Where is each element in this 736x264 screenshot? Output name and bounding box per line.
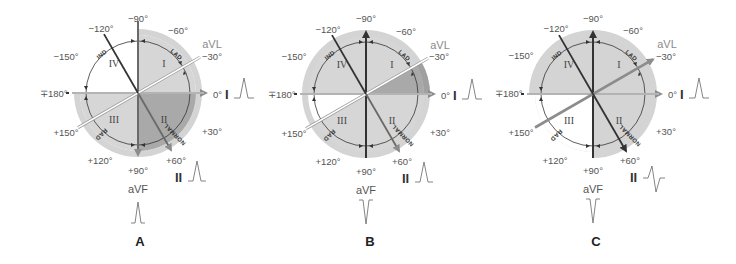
- lead-label-avl: aVL: [430, 39, 450, 51]
- lead-label-i: I: [453, 88, 457, 103]
- panel-c: I II III IV IND LAD NORMAL RAD: [521, 30, 661, 158]
- quadrant-label-i: I: [617, 59, 620, 70]
- lead-label-ii: II: [175, 170, 182, 185]
- deg-label: +120°: [542, 155, 567, 166]
- deg-label: −120°: [88, 23, 113, 34]
- deg-label: −120°: [543, 23, 568, 34]
- deg-label: −30°: [202, 51, 222, 62]
- ecg-lead-i-complex: [234, 78, 254, 98]
- deg-label: +60°: [620, 155, 640, 166]
- deg-label: ∓180°: [495, 88, 523, 99]
- lead-label-avf: aVF: [356, 184, 376, 196]
- lead-label-avl: aVL: [657, 38, 677, 50]
- ecg-lead-ii-complex: [415, 162, 433, 182]
- ecg-lead-ii-biphasic: [643, 166, 665, 192]
- deg-label: +30°: [430, 127, 450, 138]
- hexaxial-figure: I II III IV IND LAD NORMAL RAD −90° −60°…: [0, 0, 736, 264]
- panel-letter-a: A: [135, 234, 145, 249]
- quadrant-label-iii: III: [109, 114, 119, 125]
- ecg-avf-complex: [131, 202, 145, 223]
- lead-label-ii: II: [630, 170, 637, 185]
- lead-label-i: I: [680, 87, 684, 102]
- lead-label-i: I: [225, 87, 229, 102]
- quadrant-label-iv: IV: [564, 59, 575, 70]
- deg-label: +90°: [356, 166, 376, 177]
- quadrant-label-iv: IV: [337, 59, 348, 70]
- deg-label: −150°: [53, 51, 78, 62]
- deg-label: +150°: [53, 127, 78, 138]
- deg-label: +150°: [281, 128, 306, 139]
- deg-label: +90°: [583, 165, 603, 176]
- quadrant-label-iii: III: [564, 115, 574, 126]
- deg-label: −30°: [429, 51, 449, 62]
- deg-label: +30°: [656, 126, 676, 137]
- deg-label: −30°: [656, 51, 676, 62]
- deg-label: 0°: [668, 89, 677, 100]
- ecg-lead-i-complex: [689, 78, 709, 98]
- deg-label: +90°: [128, 165, 148, 176]
- deg-label: +120°: [315, 156, 340, 167]
- deg-label: −120°: [315, 24, 340, 35]
- ecg-avf-complex: [586, 199, 600, 223]
- deg-label: −90°: [128, 13, 148, 24]
- lead-label-avf: aVF: [128, 183, 148, 195]
- panel-letter-c: C: [591, 234, 601, 249]
- quadrant-label-i: I: [162, 58, 165, 69]
- deg-label: +60°: [166, 155, 186, 166]
- deg-label: +120°: [87, 155, 112, 166]
- panel-b: I II III IV IND LAD NORMAL RAD: [294, 30, 434, 158]
- deg-label: −60°: [396, 26, 416, 37]
- deg-label: −60°: [168, 25, 188, 36]
- lead-label-ii: II: [402, 171, 409, 186]
- quadrant-label-i: I: [390, 59, 393, 70]
- deg-label: −60°: [623, 25, 643, 36]
- deg-label: 0°: [213, 89, 222, 100]
- deg-label: −150°: [281, 51, 306, 62]
- deg-label: −90°: [356, 13, 376, 24]
- quadrant-label-iv: IV: [109, 58, 120, 69]
- deg-label: +150°: [508, 127, 533, 138]
- panel-letter-b: B: [365, 234, 374, 249]
- lead-label-avf: aVF: [583, 183, 603, 195]
- deg-label: ∓180°: [268, 89, 296, 100]
- deg-label: +60°: [392, 156, 412, 167]
- deg-label: 0°: [441, 90, 450, 101]
- ecg-lead-ii-complex: [188, 161, 206, 181]
- lead-label-avl: aVL: [202, 38, 222, 50]
- ecg-avf-complex: [359, 200, 373, 224]
- deg-label: −150°: [508, 50, 533, 61]
- deg-label: ∓180°: [40, 88, 68, 99]
- quadrant-label-iii: III: [337, 115, 347, 126]
- deg-label: −90°: [583, 13, 603, 24]
- ecg-lead-i-complex: [462, 79, 482, 99]
- deg-label: +30°: [202, 126, 222, 137]
- panel-a: I II III IV IND LAD NORMAL RAD: [66, 21, 206, 157]
